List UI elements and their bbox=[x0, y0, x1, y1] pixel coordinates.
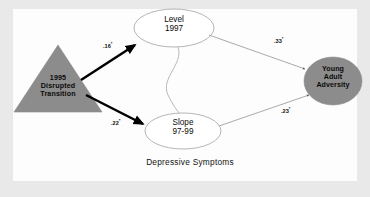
path-disrupted-to-level bbox=[81, 45, 135, 80]
figure-caption: Depressive Symptoms bbox=[120, 157, 260, 167]
level-slope-covariance-curve bbox=[166, 47, 179, 113]
path-level-to-adversity bbox=[209, 35, 305, 69]
slope-ellipse bbox=[145, 113, 221, 149]
young-adult-adversity-ellipse bbox=[304, 57, 362, 105]
level-ellipse bbox=[134, 9, 214, 47]
path-diagram-figure: 1995 Disrupted Transition Level 1997 Slo… bbox=[0, 0, 370, 197]
diagram-canvas bbox=[0, 0, 370, 197]
disrupted-transition-triangle bbox=[14, 45, 102, 112]
path-slope-to-adversity bbox=[219, 95, 309, 126]
